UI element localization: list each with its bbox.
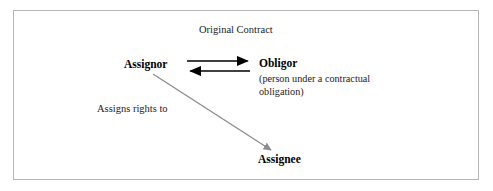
arrow-assignor-to-assignee — [153, 74, 271, 150]
assignment-contract-diagram: Original Contract Assignor Obligor (pers… — [0, 0, 493, 191]
arrow-layer — [0, 0, 493, 191]
